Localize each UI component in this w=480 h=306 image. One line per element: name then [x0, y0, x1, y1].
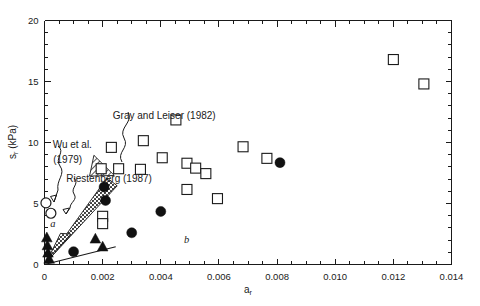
y-tick-label: 10 [28, 137, 39, 148]
x-tick-label: 0.004 [149, 271, 173, 282]
y-tick-label: 20 [28, 15, 39, 26]
marker-open-square [106, 142, 116, 152]
marker-open-square [419, 79, 429, 89]
marker-open-square [212, 194, 222, 204]
region-label-b: b [184, 234, 189, 245]
marker-open-square [262, 153, 272, 163]
marker-open-square [157, 153, 167, 163]
marker-filled-circle [127, 228, 137, 238]
y-tick-label: 15 [28, 76, 39, 87]
riestenberg-label: Riestenberg (1987) [66, 173, 152, 184]
x-tick-label: 0.008 [265, 271, 289, 282]
marker-filled-circle [275, 158, 285, 168]
x-axis-tick-labels: 00.0020.0040.0060.0080.0100.0120.014 [42, 271, 464, 282]
marker-open-square [238, 142, 248, 152]
marker-open-square [98, 219, 108, 229]
x-tick-label: 0.012 [381, 271, 405, 282]
gray-and-leiser-label: Gray and Leiser (1982) [113, 110, 216, 121]
wu-et-al-label-line1: Wu et al. [53, 139, 92, 150]
x-tick-label: 0.014 [440, 271, 464, 282]
marker-filled-triangle [42, 232, 53, 242]
marker-open-square [388, 55, 398, 65]
marker-filled-triangle [90, 233, 101, 243]
y-tick-label: 0 [33, 259, 38, 270]
marker-filled-circle [101, 195, 111, 205]
marker-filled-circle [69, 247, 79, 257]
scatter-plot-svg: 00.0020.0040.0060.0080.0100.0120.014 051… [0, 0, 480, 306]
marker-filled-circle [156, 206, 166, 216]
data-markers [41, 55, 429, 264]
marker-open-square [191, 163, 201, 173]
y-axis-title: sr (kPa) [7, 125, 20, 159]
y-tick-label: 5 [33, 198, 38, 209]
marker-open-square [201, 169, 211, 179]
wu-et-al-label-line2: (1979) [53, 154, 82, 165]
x-tick-label: 0.006 [207, 271, 231, 282]
wu-leader-curve [58, 146, 62, 190]
wu-arrowhead [51, 195, 57, 202]
marker-open-circle [41, 198, 51, 208]
x-axis-title: ar [244, 284, 253, 297]
marker-open-square [138, 136, 148, 146]
x-tick-label: 0 [42, 271, 47, 282]
region-label-a: a [50, 218, 55, 229]
chart-figure: 00.0020.0040.0060.0080.0100.0120.014 051… [0, 0, 480, 306]
marker-open-square [182, 184, 192, 194]
x-tick-label: 0.010 [323, 271, 347, 282]
marker-open-circle [46, 208, 56, 218]
x-tick-label: 0.002 [91, 271, 115, 282]
y-axis-tick-labels: 05101520 [28, 15, 39, 270]
